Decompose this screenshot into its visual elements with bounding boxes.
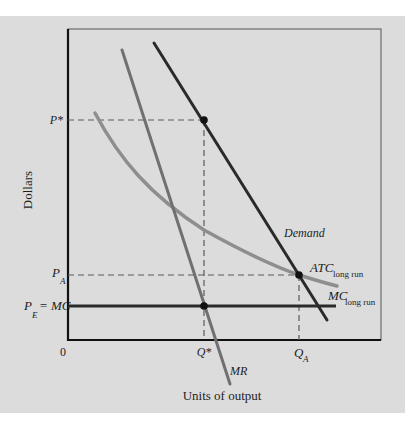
p-a-label: P A <box>51 265 66 286</box>
demand-line <box>154 43 327 320</box>
p-e-mc-label: P E = MC <box>23 298 71 320</box>
mr-line <box>122 50 230 384</box>
q-a-label: Q A <box>294 345 309 364</box>
atc-long-run-label: ATC long run <box>309 260 364 279</box>
svg-text:ATC: ATC <box>309 260 334 275</box>
svg-text:long run: long run <box>345 297 376 307</box>
p-star-label: P* <box>49 113 63 127</box>
svg-text:E: E <box>31 310 38 320</box>
demand-label: Demand <box>283 226 326 240</box>
svg-text:A: A <box>59 276 66 286</box>
svg-text:A: A <box>302 354 309 364</box>
svg-text:P: P <box>51 265 60 280</box>
y-axis-label: Dollars <box>20 171 35 209</box>
svg-text:long run: long run <box>333 269 364 279</box>
point-p-a <box>295 271 303 279</box>
point-mr-equals-mc <box>200 302 208 310</box>
mc-long-run-label: MC long run <box>327 288 376 307</box>
origin-label: 0 <box>60 345 66 359</box>
monopoly-regulation-diagram: Dollars P* P A P E = MC 0 Q* Q A Units o… <box>0 0 405 421</box>
svg-text:P: P <box>23 298 32 313</box>
atc-long-run-curve <box>95 113 337 286</box>
mr-label: MR <box>229 364 248 378</box>
q-star-label: Q* <box>197 345 212 359</box>
point-p-star <box>200 116 208 124</box>
svg-text:= MC: = MC <box>39 298 71 313</box>
x-axis-label: Units of output <box>183 388 262 403</box>
